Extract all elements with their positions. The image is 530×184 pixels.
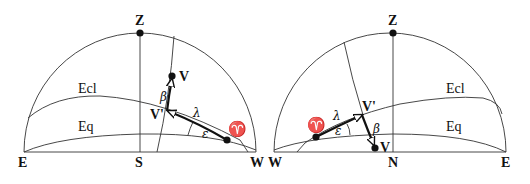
left-point-v bbox=[168, 72, 175, 79]
right-label-zenith: Z bbox=[388, 13, 397, 28]
left-label-south: S bbox=[135, 155, 143, 170]
right-point-v bbox=[371, 144, 378, 151]
right-epsilon-arc bbox=[347, 124, 350, 135]
left-label-equator: Eq bbox=[78, 119, 94, 134]
right-hemisphere: Z W N E Ecl Eq V V' ♈ β λ ε bbox=[268, 13, 510, 170]
celestial-sphere-diagram: Z E S W Ecl Eq V V' ♈ β λ ε Z W N bbox=[0, 0, 530, 184]
right-label-v: V bbox=[380, 140, 390, 155]
left-label-epsilon: ε bbox=[202, 127, 208, 141]
right-label-west: W bbox=[268, 155, 282, 170]
right-vernal-point bbox=[312, 133, 319, 140]
right-label-equator: Eq bbox=[446, 119, 462, 134]
left-epsilon-arc bbox=[188, 122, 193, 135]
right-hour-circle bbox=[344, 42, 363, 115]
left-label-vernal-equinox: ♈ bbox=[228, 120, 247, 138]
right-label-north: N bbox=[388, 155, 398, 170]
right-label-beta: β bbox=[372, 122, 380, 136]
right-label-ecliptic: Ecl bbox=[446, 81, 465, 96]
left-label-v-prime: V' bbox=[150, 107, 164, 122]
right-label-v-prime: V' bbox=[362, 99, 376, 114]
right-label-epsilon: ε bbox=[335, 124, 341, 138]
right-label-lambda: λ bbox=[332, 109, 341, 123]
left-label-west: W bbox=[250, 155, 264, 170]
left-label-east: E bbox=[18, 155, 27, 170]
left-label-beta: β bbox=[159, 90, 167, 104]
left-label-ecliptic: Ecl bbox=[78, 81, 97, 96]
left-hemisphere: Z E S W Ecl Eq V V' ♈ β λ ε bbox=[18, 13, 264, 170]
left-label-v: V bbox=[179, 69, 189, 84]
right-label-east: E bbox=[501, 155, 510, 170]
left-label-zenith: Z bbox=[135, 13, 144, 28]
left-label-lambda: λ bbox=[192, 106, 201, 120]
left-ecliptic-curve bbox=[28, 96, 248, 152]
right-label-vernal-equinox: ♈ bbox=[307, 116, 326, 134]
left-zenith-point bbox=[136, 29, 143, 36]
right-zenith-point bbox=[389, 29, 396, 36]
right-ecliptic-curve bbox=[297, 97, 502, 152]
